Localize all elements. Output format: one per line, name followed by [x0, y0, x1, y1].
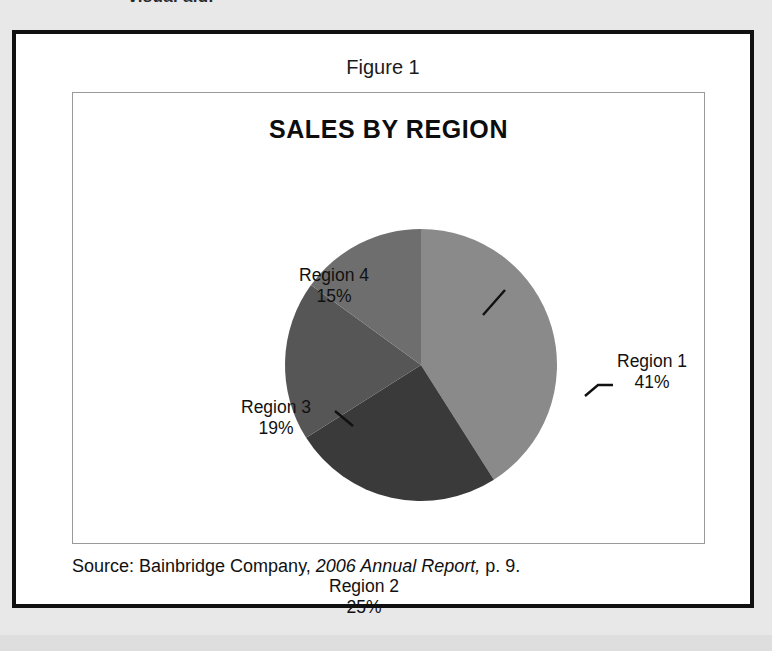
pie-label-region-4-name: Region 4: [299, 265, 369, 285]
pie-label-region-2-value: 25%: [329, 597, 399, 618]
pie-label-region-3: Region 3 19%: [241, 397, 311, 440]
pie-chart: [73, 93, 706, 545]
pie-label-region-2-name: Region 2: [329, 576, 399, 596]
chart-frame: SALES BY REGION Region 1 41% Region 2 25…: [72, 92, 705, 544]
pie-label-region-1: Region 1 41%: [617, 351, 687, 394]
source-suffix: p. 9.: [480, 556, 520, 576]
leader-line-region-1: [585, 385, 613, 396]
pie-label-region-2: Region 2 25%: [329, 576, 399, 619]
pie-label-region-1-name: Region 1: [617, 351, 687, 371]
scan-bottom-edge: [0, 635, 772, 651]
cut-off-page-heading: visual aid.: [128, 0, 358, 7]
source-note: Source: Bainbridge Company, 2006 Annual …: [72, 556, 520, 577]
figure-caption: Figure 1: [16, 56, 750, 79]
pie-label-region-4-value: 15%: [299, 286, 369, 307]
pie-label-region-4: Region 4 15%: [299, 265, 369, 308]
source-title-italic: 2006 Annual Report,: [316, 556, 480, 576]
figure-box: Figure 1 SALES BY REGION Region 1 41% Re…: [12, 30, 754, 608]
source-prefix: Source: Bainbridge Company,: [72, 556, 316, 576]
pie-label-region-3-name: Region 3: [241, 397, 311, 417]
pie-label-region-1-value: 41%: [617, 372, 687, 393]
pie-label-region-3-value: 19%: [241, 418, 311, 439]
